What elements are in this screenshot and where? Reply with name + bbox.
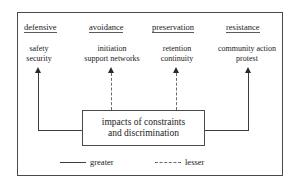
column-header-resistance: resistance — [226, 22, 296, 32]
diagram-figure: defensive avoidance preservation resista… — [0, 0, 301, 189]
arrow-head-avoidance — [108, 67, 114, 73]
connector-elbow-defensive — [38, 130, 83, 131]
column-item-preservation-line2: continuity — [146, 54, 208, 64]
legend-label-lesser: lesser — [185, 157, 204, 167]
arrow-line-defensive — [38, 73, 39, 130]
column-header-avoidance-label: avoidance — [89, 22, 123, 33]
column-header-defensive: defensive — [24, 22, 94, 32]
column-item-avoidance-line1: initiation — [72, 44, 152, 54]
legend: greater lesser — [60, 157, 240, 171]
column-item-avoidance-line2: support networks — [68, 54, 156, 64]
column-item-defensive-line2: security — [8, 54, 70, 64]
legend-label-greater: greater — [90, 157, 114, 167]
arrow-head-preservation — [173, 67, 179, 73]
legend-entry-lesser: lesser — [155, 157, 204, 167]
arrow-line-avoidance — [111, 73, 112, 110]
column-item-defensive-line1: safety — [8, 44, 70, 54]
arrow-line-preservation — [176, 73, 177, 110]
center-box: impacts of constraints and discriminatio… — [82, 110, 205, 146]
column-header-preservation-label: preservation — [152, 22, 194, 33]
connector-elbow-resistance — [205, 130, 249, 131]
legend-entry-greater: greater — [60, 157, 114, 167]
diagram-frame — [17, 12, 283, 176]
column-item-resistance-line2: protest — [206, 54, 288, 64]
column-header-preservation: preservation — [152, 22, 232, 32]
column-item-resistance-line1: community action — [206, 44, 288, 54]
arrow-head-defensive — [35, 67, 41, 73]
center-box-text: impacts of constraints and discriminatio… — [102, 117, 185, 140]
center-box-line1: impacts of constraints — [102, 117, 185, 129]
column-header-defensive-label: defensive — [24, 22, 57, 33]
arrow-head-resistance — [245, 67, 251, 73]
center-box-line2: and discrimination — [102, 128, 185, 140]
arrow-line-resistance — [248, 73, 249, 130]
column-header-resistance-label: resistance — [226, 22, 260, 33]
solid-line-icon — [60, 162, 86, 163]
column-header-avoidance: avoidance — [89, 22, 159, 32]
dashed-line-icon — [155, 162, 181, 163]
column-item-preservation-line1: retention — [146, 44, 208, 54]
